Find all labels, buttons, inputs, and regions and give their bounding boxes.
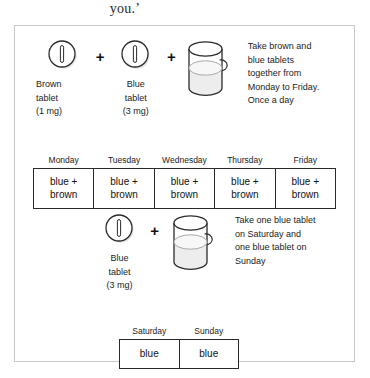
- weekday-regimen-row: Brown tablet (1 mg) + Blue tablet (3 mg)…: [33, 38, 338, 119]
- plus-icon: +: [167, 38, 176, 64]
- table-row: blue blue: [120, 340, 239, 369]
- document-text-fragment: you.’: [0, 1, 140, 17]
- dose-cell-tuesday: blue + brown: [94, 169, 154, 209]
- tablet-icon: [46, 38, 80, 72]
- blue-tablet-item: Blue tablet (3 mg): [93, 212, 146, 293]
- dose-cell-monday: blue + brown: [34, 169, 94, 209]
- table-header-row: Monday Tuesday Wednesday Thursday Friday: [34, 155, 336, 169]
- weekend-regimen-row: Blue tablet (3 mg) + Take one blue table…: [93, 212, 343, 293]
- day-header-monday: Monday: [34, 155, 94, 169]
- plus-icon: +: [96, 38, 105, 64]
- plus-icon: +: [150, 212, 159, 238]
- day-header-friday: Friday: [275, 155, 335, 169]
- day-header-wednesday: Wednesday: [154, 155, 214, 169]
- brown-tablet-caption: Brown tablet (1 mg): [36, 78, 62, 119]
- weekend-instruction-text: Take one blue tablet on Saturday and one…: [235, 212, 343, 268]
- dose-cell-sunday: blue: [179, 340, 239, 369]
- table-row: blue + brown blue + brown blue + brown b…: [34, 169, 336, 209]
- day-header-thursday: Thursday: [215, 155, 275, 169]
- blue-tablet-item: Blue tablet (3 mg): [105, 38, 166, 119]
- dose-cell-friday: blue + brown: [275, 169, 335, 209]
- table-header-row: Saturday Sunday: [120, 326, 239, 340]
- day-header-saturday: Saturday: [120, 326, 180, 340]
- blue-tablet-caption: Blue tablet (3 mg): [107, 252, 133, 293]
- dose-cell-thursday: blue + brown: [215, 169, 275, 209]
- day-header-tuesday: Tuesday: [94, 155, 154, 169]
- tablet-icon: [103, 212, 137, 246]
- cup-of-water-icon: [182, 38, 238, 100]
- dose-cell-saturday: blue: [120, 340, 180, 369]
- blue-tablet-caption: Blue tablet (3 mg): [123, 78, 149, 119]
- cup-of-water-icon: [167, 212, 223, 274]
- medication-schedule-figure: Brown tablet (1 mg) + Blue tablet (3 mg)…: [14, 25, 355, 362]
- dose-cell-wednesday: blue + brown: [154, 169, 214, 209]
- weekday-schedule-table: Monday Tuesday Wednesday Thursday Friday…: [33, 155, 336, 209]
- weekday-instruction-text: Take brown and blue tablets together fro…: [248, 38, 338, 108]
- tablet-icon: [119, 38, 153, 72]
- brown-tablet-item: Brown tablet (1 mg): [33, 38, 94, 119]
- day-header-sunday: Sunday: [179, 326, 239, 340]
- weekend-schedule-table: Saturday Sunday blue blue: [119, 326, 239, 369]
